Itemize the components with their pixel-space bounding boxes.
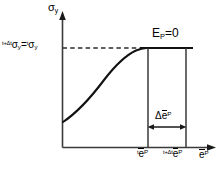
xtick-t-superscript: P [144,148,148,155]
plastic-modulus-e-glyph: E [152,26,160,40]
xtick-label-t: teP [137,149,148,159]
delta-glyph: Δ [155,110,162,121]
x-axis-superscript: P [205,149,209,156]
y-axis-label: σy [48,2,58,14]
xtick-tdt-superscript: P [178,148,182,155]
plot-canvas [0,0,222,170]
plastic-modulus-equals-zero: =0 [165,26,179,40]
y-axis [59,11,66,148]
delta-ebar-glyph: e [162,111,168,121]
x-axis-label: eP [199,150,209,160]
hardening-curve [63,48,146,122]
y-axis-sigma-glyph: σ [48,1,55,13]
plastic-hardening-figure: σy t+Δtσy=tσy EP=0 ΔeP teP t+ΔteP eP [0,0,222,170]
y-axis-arrowhead [59,11,66,20]
xtick-t-ebar-glyph: e [138,149,144,159]
delta-strain-span-arrow [148,124,187,129]
y-axis-sigma-subscript: y [55,7,58,14]
xtick-label-t-plus-dt: t+ΔteP [163,149,182,159]
delta-plastic-strain-label: ΔeP [155,111,171,121]
yield-stress-value-label: t+Δtσy=tσy [2,40,37,51]
delta-ebar-superscript: P [167,110,171,117]
plastic-modulus-label: EP=0 [152,27,179,40]
yield-value-sub-2: y [34,43,37,50]
xtick-tdt-ebar-glyph: e [173,149,179,159]
yield-value-prescript-current: t+Δt [2,40,12,46]
x-axis-ebar-glyph: e [199,150,205,160]
xtick-tdt-prescript: t+Δt [163,149,173,155]
